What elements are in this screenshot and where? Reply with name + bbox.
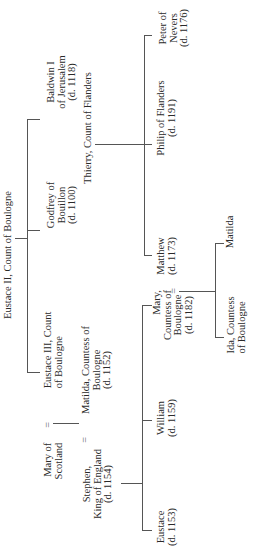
- descent-line: [144, 35, 152, 36]
- person-title: Scotland: [53, 443, 64, 480]
- person-godfrey: Godfrey of Bouillon (d. 1100): [46, 182, 78, 228]
- person-matthew: Matthew (d. 1173): [156, 237, 177, 275]
- marriage-symbol: =: [168, 288, 179, 294]
- person-dates: (d. 1182): [184, 290, 195, 340]
- person-name: Mary,: [152, 290, 163, 340]
- marriage-symbol: =: [42, 422, 53, 428]
- person-name: Peter of: [158, 9, 169, 47]
- person-name: Stephen,: [82, 449, 93, 519]
- descent-line: [121, 483, 142, 484]
- marriage-symbol: =: [79, 437, 90, 443]
- person-dates: (d. 1154): [103, 449, 114, 519]
- person-dates: (d. 1153): [166, 508, 177, 546]
- person-matilda: Matilda: [225, 216, 236, 249]
- person-name: Baldwin I: [46, 55, 57, 108]
- sibling-bracket: [27, 119, 28, 373]
- person-dates: (d. 1118): [67, 55, 78, 108]
- descent-line: [215, 243, 224, 244]
- descent-line: [27, 119, 40, 120]
- person-name: Philip of Flanders: [156, 80, 167, 155]
- descent-line: [215, 337, 224, 338]
- person-eustace: Eustace (d. 1153): [156, 508, 177, 546]
- person-peter: Peter of Nevers (d. 1176): [158, 9, 190, 47]
- person-william: William (d. 1159): [156, 399, 177, 437]
- sibling-bracket: [142, 305, 143, 530]
- sibling-bracket: [144, 35, 145, 255]
- person-stephen: Stephen, King of England (d. 1154): [82, 449, 114, 519]
- descent-line: [53, 423, 79, 424]
- person-dates: (d. 1191): [166, 80, 177, 155]
- person-dates: (d. 1100): [67, 182, 78, 228]
- person-dates: (d. 1173): [166, 237, 177, 275]
- person-eustace-ii: Eustace II, Count of Boulogne: [3, 191, 14, 319]
- person-dates: (d. 1159): [166, 399, 177, 437]
- person-eustace-iii: Eustace III, Count of Boulogne: [43, 312, 64, 389]
- person-name: Eustace: [156, 508, 167, 546]
- descent-line: [144, 255, 152, 256]
- person-name: Eustace III, Count: [43, 312, 54, 389]
- person-name: Matthew: [156, 237, 167, 275]
- descent-line: [142, 420, 152, 421]
- descent-line: [27, 230, 40, 231]
- person-name: Thierry, Count of Flanders: [83, 72, 94, 184]
- person-dates: (d. 1152): [102, 326, 113, 414]
- person-mary-of-scotland: Mary of Scotland: [43, 443, 64, 480]
- sibling-bracket: [215, 243, 216, 337]
- person-title: Boulogne: [173, 290, 184, 340]
- person-title: of Boulogne: [236, 296, 247, 353]
- person-dates: (d. 1176): [179, 9, 190, 47]
- descent-line: [179, 291, 215, 292]
- person-baldwin: Baldwin I of Jerusalem (d. 1118): [46, 55, 78, 108]
- person-philip: Philip of Flanders (d. 1191): [156, 80, 177, 155]
- person-thierry: Thierry, Count of Flanders: [83, 72, 94, 184]
- descent-line: [144, 144, 152, 145]
- person-matilda-countess: Matilda, Countess of Boulogne (d. 1152): [81, 326, 113, 414]
- person-name: Mary of: [43, 443, 54, 480]
- person-name: Matilda: [225, 216, 236, 249]
- person-name: Godfrey of: [46, 182, 57, 228]
- descent-line: [95, 144, 144, 145]
- descent-line: [142, 530, 152, 531]
- person-name: Ida, Countess: [226, 296, 237, 353]
- person-mary-countess: Mary, Countess of Boulogne (d. 1182): [152, 290, 194, 340]
- person-name: Eustace II, Count of Boulogne: [3, 191, 14, 319]
- person-name: Matilda, Countess of: [81, 326, 92, 414]
- descent-line: [27, 372, 40, 373]
- person-title: of Boulogne: [53, 312, 64, 389]
- person-ida: Ida, Countess of Boulogne: [226, 296, 247, 353]
- person-name: William: [156, 399, 167, 437]
